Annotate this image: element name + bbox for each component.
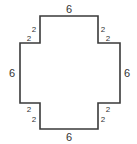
label-top-left-horizontal: 2: [27, 34, 32, 43]
label-bottom: 6: [66, 131, 72, 143]
label-bottom-right-horizontal: 2: [106, 105, 111, 114]
label-top-left-vertical: 2: [32, 25, 37, 34]
label-bottom-right-vertical: 2: [101, 115, 106, 124]
label-bottom-left-horizontal: 2: [27, 105, 32, 114]
label-top-right-vertical: 2: [101, 25, 106, 34]
label-top: 6: [66, 3, 72, 15]
label-bottom-left-vertical: 2: [32, 115, 37, 124]
label-top-right-horizontal: 2: [106, 34, 111, 43]
label-right: 6: [124, 67, 130, 79]
cross-shape-diagram: 6 6 6 6 2 2 2 2 2 2 2 2: [0, 0, 137, 144]
label-left: 6: [9, 67, 15, 79]
